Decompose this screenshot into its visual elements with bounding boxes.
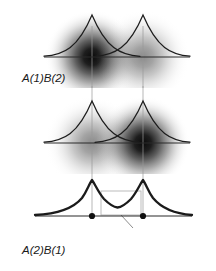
nucleus-b: [140, 213, 146, 219]
panel-a1b2-label: A(1)B(2): [22, 72, 65, 84]
panel-a1b2: A(1)B(2): [0, 0, 216, 88]
panel-superposition-graphic: [0, 174, 216, 271]
nucleus-a: [89, 213, 95, 219]
panel-a2b1: A(2)B(1): [0, 86, 216, 174]
callout-leader-line: [121, 215, 133, 228]
panel-a2b1-graphic: [0, 86, 216, 174]
valence-bond-figure: A(1)B(2): [0, 0, 216, 271]
panel-superposition: A(1)B(2) + A(2)B(1) Enhanced electron de…: [0, 174, 216, 271]
superposition-curve: [35, 180, 192, 215]
